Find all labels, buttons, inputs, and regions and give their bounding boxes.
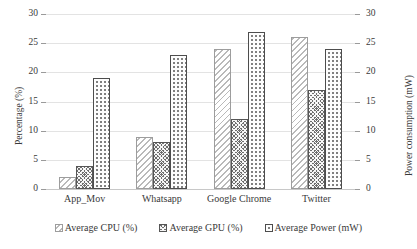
legend-swatch-icon — [159, 224, 167, 232]
y-axis-left-tick-label: 15 — [8, 97, 38, 107]
legend-label: Average CPU (%) — [65, 222, 138, 234]
legend-swatch-icon — [265, 224, 273, 232]
y-axis-left-tick-label: 30 — [8, 9, 38, 19]
bar — [93, 78, 110, 189]
bar-group — [46, 14, 123, 189]
x-axis-category-label: Twitter — [278, 192, 355, 208]
legend-swatch-icon — [55, 224, 63, 232]
bar-group — [201, 14, 278, 189]
y-axis-left-tick-label: 0 — [8, 184, 38, 194]
legend-label: Average GPU (%) — [169, 222, 242, 234]
bar — [153, 142, 170, 189]
y-axis-left-tick-label: 5 — [8, 155, 38, 165]
bar-chart: Percentage (%) Power consumption (mW) 05… — [0, 0, 417, 249]
plot-area — [46, 14, 355, 189]
legend-label: Average Power (mW) — [275, 222, 363, 234]
bar — [59, 177, 76, 189]
bar — [291, 37, 308, 189]
tick-mark — [355, 72, 360, 73]
tick-mark — [355, 102, 360, 103]
y-axis-left-title: Percentage (%) — [14, 87, 24, 145]
x-axis-category-label: Google Chrome — [201, 192, 278, 208]
bar — [325, 49, 342, 189]
x-axis-category-label: Whatsapp — [123, 192, 200, 208]
bar — [248, 32, 265, 190]
y-axis-right-tick-label: 10 — [366, 126, 396, 136]
y-axis-left-tick-label: 20 — [8, 67, 38, 77]
x-axis-category-label: App_Mov — [46, 192, 123, 208]
legend-item: Average Power (mW) — [265, 222, 363, 234]
tick-mark — [355, 160, 360, 161]
y-axis-right-tick-label: 20 — [366, 67, 396, 77]
legend-item: Average CPU (%) — [55, 222, 138, 234]
tick-mark — [355, 14, 360, 15]
bar — [214, 49, 231, 189]
tick-mark — [355, 43, 360, 44]
y-axis-right-tick-label: 25 — [366, 38, 396, 48]
bar — [76, 166, 93, 189]
bars-layer — [46, 14, 355, 189]
chart-legend: Average CPU (%)Average GPU (%)Average Po… — [0, 222, 417, 234]
x-axis-category-labels: App_MovWhatsappGoogle ChromeTwitter — [46, 192, 355, 208]
legend-item: Average GPU (%) — [159, 222, 242, 234]
bar-group — [278, 14, 355, 189]
bar-group — [123, 14, 200, 189]
y-axis-right-tick-label: 15 — [366, 97, 396, 107]
bar — [170, 55, 187, 189]
y-axis-right-tick-label: 30 — [366, 9, 396, 19]
bar — [231, 119, 248, 189]
y-axis-right-tick-label: 5 — [366, 155, 396, 165]
y-axis-left-tick-label: 25 — [8, 38, 38, 48]
tick-mark — [355, 189, 360, 190]
bar — [308, 90, 325, 189]
tick-mark — [355, 131, 360, 132]
y-axis-right-title: Power consumption (mW) — [404, 75, 414, 176]
gridline — [46, 189, 355, 190]
y-axis-left-tick-label: 10 — [8, 126, 38, 136]
bar — [136, 137, 153, 190]
y-axis-right-tick-label: 0 — [366, 184, 396, 194]
